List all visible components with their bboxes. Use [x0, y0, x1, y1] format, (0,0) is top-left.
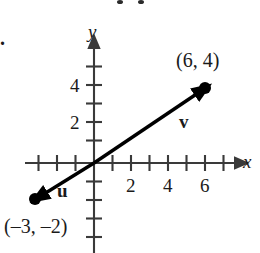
x-axis-label: x [243, 152, 251, 171]
vector-u-shaft [44, 163, 94, 194]
x-tick-label-2: 2 [126, 176, 136, 195]
vector-v-label: v [179, 112, 189, 131]
y-axis-label: y [88, 22, 96, 41]
vector-v [94, 82, 211, 163]
x-axis [25, 155, 236, 171]
point-dot-neg3-neg2 [29, 193, 41, 205]
y-tick-label-2: 2 [70, 113, 80, 132]
point-label-6-4: (6, 4) [176, 50, 219, 70]
x-tick-label-4: 4 [163, 176, 173, 195]
problem-number: . [0, 28, 5, 48]
y-axis [86, 47, 102, 253]
point-dot-6-4 [199, 82, 211, 94]
figure-canvas: . y x 4 2 2 4 6 v u (6, 4) (–3, –2) [0, 0, 260, 253]
x-tick-label-6: 6 [200, 176, 210, 195]
y-tick-label-4: 4 [70, 76, 80, 95]
vector-u-label: u [57, 181, 68, 200]
point-label-neg3-neg2: (–3, –2) [4, 216, 67, 236]
